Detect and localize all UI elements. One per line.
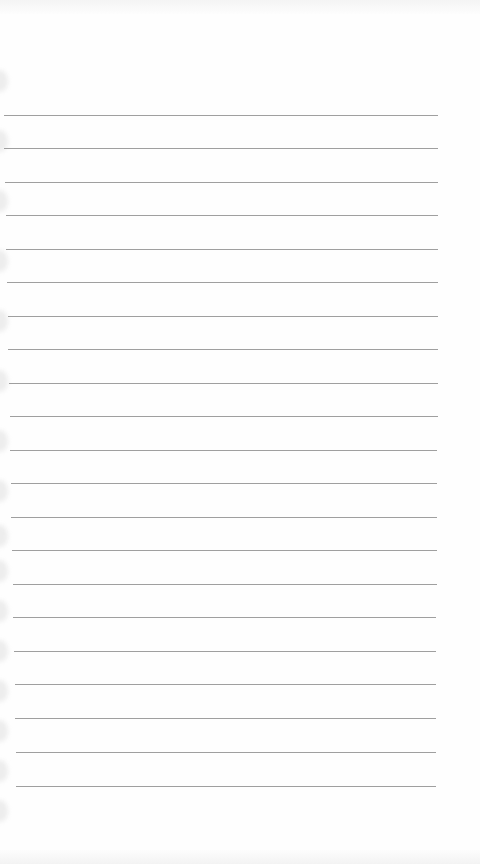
ruled-line (12, 550, 437, 551)
ruled-line (6, 215, 438, 216)
ruled-line (11, 517, 437, 518)
ruled-line (4, 148, 438, 149)
perforation-mark (0, 800, 8, 822)
ruled-line (16, 786, 436, 787)
ruled-line (15, 718, 436, 719)
perforation-mark (0, 480, 8, 502)
perforation-mark (0, 640, 8, 662)
perforation-mark (0, 720, 8, 742)
ruled-line (8, 349, 438, 350)
perforation-mark (0, 600, 8, 622)
ruled-line (15, 684, 436, 685)
perforation-mark (0, 560, 8, 582)
notebook-page (0, 0, 480, 864)
perforation-mark (0, 760, 8, 782)
perforation-mark (0, 370, 8, 392)
ruled-line (5, 182, 438, 183)
ruled-line (10, 450, 437, 451)
ruled-line (7, 282, 438, 283)
page-top-edge (0, 0, 480, 14)
ruled-line (10, 416, 438, 417)
page-bottom-edge (0, 850, 480, 864)
ruled-line (6, 249, 438, 250)
perforation-mark (0, 190, 8, 212)
ruled-line (16, 752, 436, 753)
ruled-line (4, 115, 438, 116)
perforation-mark (0, 310, 8, 332)
perforation-mark (0, 430, 8, 452)
ruled-line (8, 316, 438, 317)
perforation-mark (0, 525, 8, 547)
ruled-line (13, 584, 437, 585)
ruled-line (9, 383, 438, 384)
perforation-mark (0, 70, 8, 92)
ruled-line (11, 483, 437, 484)
ruled-line (14, 651, 436, 652)
perforation-mark (0, 680, 8, 702)
perforation-mark (0, 250, 8, 272)
ruled-line (13, 617, 436, 618)
